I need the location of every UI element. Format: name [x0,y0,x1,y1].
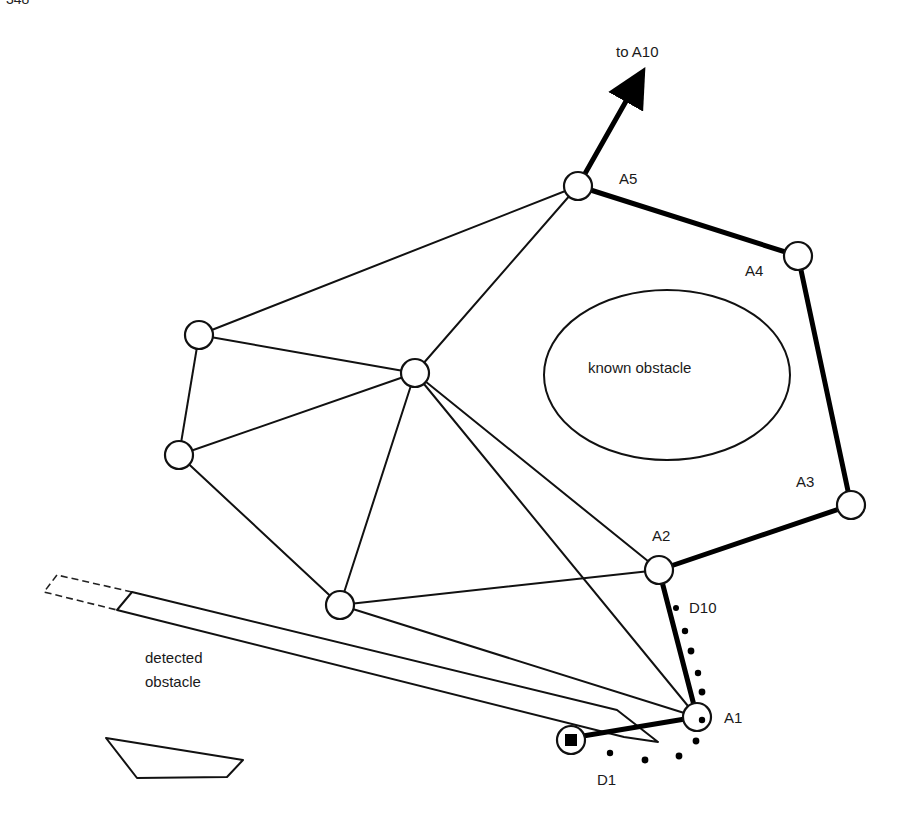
detected-obstacle-dashed-extension [44,575,132,610]
detected-obstacle [117,592,658,742]
node-a1 [683,703,711,731]
node-n2 [165,441,193,469]
known-obstacle-label: known obstacle [588,359,691,376]
arrow-label: to A10 [616,43,659,60]
node-n3 [326,591,354,619]
small-obstacle [106,738,243,778]
a5-label: A5 [619,170,637,187]
a3-label: A3 [796,473,814,490]
d1-label: D1 [597,771,616,788]
node-a1-dot [699,717,705,723]
roadmap-diagram: known obstacle detected obstacle to A10 [0,0,907,834]
node-c [401,359,429,387]
detected-obstacle-label-line2: obstacle [145,673,201,690]
a4-label: A4 [745,262,763,279]
node-a5 [564,172,592,200]
node-n1 [185,321,213,349]
start-square-icon [565,734,577,746]
detected-obstacle-label-line1: detected [145,649,203,666]
a2-label: A2 [652,527,670,544]
d10-label: D10 [689,599,717,616]
node-a4 [784,242,812,270]
node-a3 [837,491,865,519]
node-a2 [645,556,673,584]
planned-path [571,80,851,738]
a1-label: A1 [724,709,742,726]
